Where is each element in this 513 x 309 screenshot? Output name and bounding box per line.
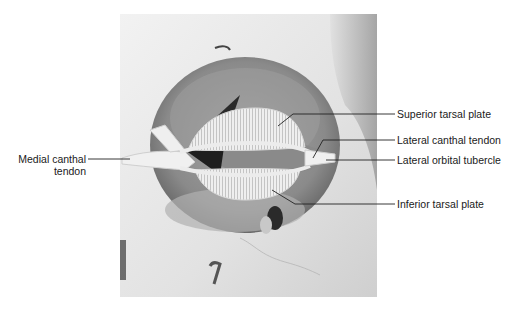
label-medial-canthal-line1: Medial canthal xyxy=(8,153,86,165)
label-inferior-tarsal-plate: Inferior tarsal plate xyxy=(397,198,484,210)
label-superior-tarsal-plate: Superior tarsal plate xyxy=(397,108,491,120)
label-lateral-orbital-tubercle: Lateral orbital tubercle xyxy=(397,154,501,166)
label-medial-canthal-tendon: Medial canthal tendon xyxy=(8,153,86,177)
label-medial-canthal-line2: tendon xyxy=(8,165,86,177)
label-lateral-canthal-tendon: Lateral canthal tendon xyxy=(397,134,501,146)
anatomy-figure: Medial canthal tendon Superior tarsal pl… xyxy=(0,0,513,309)
